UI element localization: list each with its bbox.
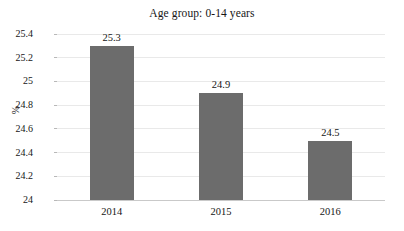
bar-value-label: 24.9	[191, 79, 251, 90]
bar-chart: Age group: 0-14 years % 25.425.22524.824…	[0, 0, 404, 231]
y-tick-mark	[54, 105, 57, 106]
y-tick-label: 25.2	[0, 53, 33, 63]
y-tick-label: 24.2	[0, 171, 33, 181]
y-tick-mark	[54, 176, 57, 177]
y-tick-label: 24.8	[0, 100, 33, 110]
y-tick-mark	[54, 81, 57, 82]
bar[interactable]	[308, 141, 352, 200]
bar-value-label: 25.3	[82, 32, 142, 43]
x-tick-label: 2014	[82, 206, 142, 218]
y-tick-label: 24.4	[0, 148, 33, 158]
y-tick-label: 24	[0, 195, 33, 205]
bar-value-label: 24.5	[300, 127, 360, 138]
y-tick-label: 25.4	[0, 29, 33, 39]
bar[interactable]	[90, 46, 134, 200]
y-tick-mark	[54, 200, 57, 201]
y-tick-mark	[54, 152, 57, 153]
plot-area: 25.425.22524.824.624.424.22425.324.924.5	[57, 34, 385, 200]
bar[interactable]	[199, 93, 243, 200]
chart-title: Age group: 0-14 years	[0, 6, 404, 20]
y-tick-label: 25	[0, 76, 33, 86]
y-tick-mark	[54, 57, 57, 58]
y-tick-mark	[54, 128, 57, 129]
y-tick-label: 24.6	[0, 124, 33, 134]
y-tick-mark	[54, 34, 57, 35]
x-tick-label: 2016	[300, 206, 360, 218]
x-tick-label: 2015	[191, 206, 251, 218]
